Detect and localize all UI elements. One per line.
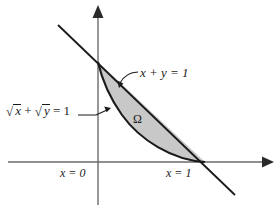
x-equals-one-label: x = 1 [166, 167, 191, 179]
leader-line-label [120, 72, 138, 83]
curve-equation-rhs: = 1 [53, 103, 70, 118]
leader-curve-label [78, 110, 107, 115]
plus-sign: + [24, 103, 31, 118]
curve-equation-label: √x + √y = 1 [6, 104, 70, 118]
figure-canvas: x + y = 1 √x + √y = 1 Ω x = 0 x = 1 [0, 0, 280, 213]
x-axis-arrowhead [262, 157, 274, 168]
sqrt-symbol-x: √x [6, 104, 21, 118]
region-label-omega: Ω [133, 113, 142, 125]
y-axis-arrowhead [93, 5, 104, 18]
radicand-y: y [44, 103, 50, 118]
sqrt-symbol-y: √y [35, 104, 50, 118]
line-equation-label: x + y = 1 [140, 66, 189, 79]
x-equals-zero-label: x = 0 [60, 167, 85, 179]
radicand-x: x [15, 103, 21, 118]
